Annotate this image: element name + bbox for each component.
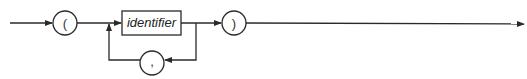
open-paren-terminal: ( bbox=[53, 11, 77, 35]
identifier-nonterminal: identifier bbox=[122, 11, 181, 35]
syntax-diagram: ( identifier , ) bbox=[0, 0, 527, 79]
comma-terminal: , bbox=[140, 51, 164, 75]
open-paren-label: ( bbox=[63, 16, 68, 31]
identifier-label: identifier bbox=[127, 15, 177, 30]
comma-label: , bbox=[150, 54, 154, 69]
close-paren-terminal: ) bbox=[222, 11, 246, 35]
close-paren-label: ) bbox=[232, 16, 236, 31]
exit-arrow bbox=[246, 23, 524, 24]
